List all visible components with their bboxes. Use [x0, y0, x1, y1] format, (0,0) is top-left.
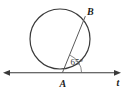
tangent-line-label-t: t	[117, 77, 121, 88]
tangent-left-arrow-icon	[3, 70, 10, 76]
geometry-diagram-container: 65° A B t	[0, 0, 127, 90]
tangent-right-arrow-icon	[114, 70, 121, 76]
point-label-b: B	[86, 6, 94, 17]
geometry-figure: 65° A B t	[0, 0, 127, 90]
angle-label-65: 65°	[71, 57, 84, 67]
point-label-a: A	[59, 78, 67, 89]
